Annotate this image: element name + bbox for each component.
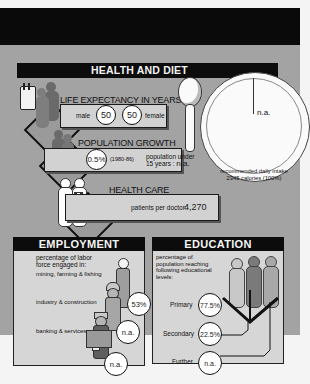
diet-caption: recommended daily intake 2345 calories (… (200, 168, 308, 182)
population-growth-rate: 0.5% (86, 149, 107, 170)
patients-per-doctor-value: 4,270 (184, 202, 207, 212)
population-growth-period: (1980-86) (110, 156, 134, 162)
education-label-further: Further (172, 358, 193, 365)
education-label-primary: Primary (170, 301, 192, 308)
education-value-secondary: 22.5% (198, 322, 222, 346)
employment-value-banking: n.a. (104, 352, 128, 376)
education-header: EDUCATION (152, 237, 284, 251)
population-under15-value: n.a. (176, 159, 189, 168)
couple-figure-icon (34, 82, 62, 128)
plate-value: n.a. (257, 108, 270, 117)
employment-intro: percentage of labor force engaged in: (36, 254, 92, 268)
education-label-secondary: Secondary (163, 330, 194, 337)
male-life-expectancy-value: 50 (96, 105, 116, 125)
education-intro: percentage of population reaching follow… (156, 254, 212, 280)
employment-step-block (86, 330, 112, 348)
male-label: male (76, 112, 90, 119)
plate-divider-line (253, 78, 254, 114)
population-growth-title: POPULATION GROWTH (78, 138, 175, 148)
patients-per-doctor-label: patients per doctor: (131, 204, 187, 211)
employment-label-industry: industry & construction (36, 299, 97, 305)
female-life-expectancy-value: 50 (122, 105, 142, 125)
health-diet-title: HEALTH AND DIET (91, 64, 188, 76)
employment-header: EMPLOYMENT (13, 237, 145, 251)
female-label: female (145, 112, 165, 119)
education-value-further: n.a. (198, 351, 222, 375)
spoon-icon (178, 77, 202, 153)
plate-inner (206, 78, 302, 174)
employment-label-mining: mining, farming & fishing (36, 271, 102, 277)
employment-value-mining: 53% (127, 292, 151, 316)
education-value-primary: 77.5% (198, 293, 222, 317)
population-under15-label: population under 15 years : n.a. (146, 153, 194, 167)
employment-label-banking: banking & services (36, 328, 86, 334)
employment-value-industry: n.a. (116, 320, 140, 344)
top-black-band (0, 8, 300, 45)
